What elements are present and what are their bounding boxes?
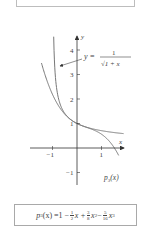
formula-term-0: 1 − <box>59 211 70 220</box>
formula-lhs-arg: (x) = <box>43 211 59 220</box>
x-tick-label: −1 <box>47 151 55 159</box>
taylor-polynomial-formula: p3(x) = 1 − 12 x + 38 x2 − 516 x3 <box>14 204 137 226</box>
y-tick-label: 3 <box>70 71 74 79</box>
formula-exponent-3: 3 <box>112 213 115 218</box>
annotation-pointer-arrow <box>60 59 82 66</box>
fraction-denominator: 8 <box>87 216 90 221</box>
y-axis-label: y <box>80 33 85 41</box>
y-tick-label: −1 <box>66 169 74 177</box>
formula-term-1: x + <box>75 211 86 220</box>
x-tick-label: 1 <box>100 151 104 159</box>
x-axis-label: x <box>118 138 123 146</box>
formula-fraction-3: 516 <box>103 210 108 221</box>
function-annotation-numerator: 1 <box>112 49 116 57</box>
fraction-denominator: 2 <box>71 216 74 221</box>
formula-fraction-1: 12 <box>70 210 74 221</box>
y-tick-label: 4 <box>70 47 74 55</box>
fraction-denominator: 16 <box>103 216 108 221</box>
function-annotation-prefix: y = <box>83 52 95 61</box>
polynomial-annotation: p₃(x) <box>103 173 119 182</box>
function-plot: −114321−1 x y y = 1 √1 + x p₃(x) <box>0 0 152 200</box>
y-tick-label: 2 <box>70 96 74 104</box>
formula-fraction-2: 38 <box>87 210 91 221</box>
polynomial-curve <box>41 63 118 155</box>
function-annotation-denominator: √1 + x <box>101 60 121 68</box>
y-tick-label: 1 <box>70 120 74 128</box>
formula-term-3: − <box>97 211 102 220</box>
